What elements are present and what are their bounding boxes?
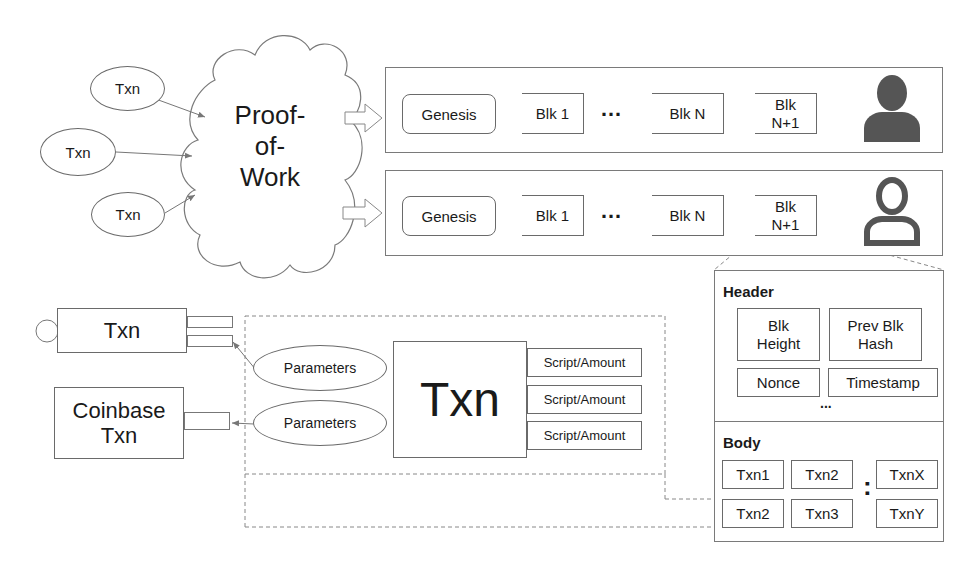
txn-input-label: Txn: [65, 144, 90, 161]
block-label: Blk N: [670, 105, 706, 122]
block-1: Blk 1: [522, 195, 584, 236]
txn-input-ellipse: Txn: [91, 192, 165, 237]
header-field-timestamp: Timestamp: [828, 368, 938, 397]
coinbase-label: Txn: [101, 423, 138, 448]
block-n-plus-1: Blk N+1: [755, 93, 817, 134]
block-n-plus-1: Blk N+1: [755, 195, 817, 236]
block-label: Blk 1: [536, 207, 569, 224]
txn-label: Txn3: [805, 505, 838, 522]
body-txn: TxnY: [876, 499, 938, 528]
field-label: Height: [757, 335, 800, 352]
cloud-line: Work: [215, 162, 325, 193]
field-label: Hash: [858, 335, 893, 352]
block-n: Blk N: [652, 195, 724, 236]
block-label: N+1: [772, 216, 800, 233]
txn-input-ellipse: Txn: [90, 66, 165, 111]
body-txn: TxnX: [876, 460, 938, 489]
txn-label: TxnY: [889, 505, 924, 522]
txn-label: Txn2: [805, 466, 838, 483]
body-more: :: [863, 473, 872, 499]
field-label: Timestamp: [846, 374, 920, 391]
block-label: Blk 1: [536, 105, 569, 122]
header-field-blk-height: Blk Height: [737, 308, 820, 361]
block-n: Blk N: [652, 93, 724, 134]
field-label: Nonce: [757, 374, 800, 391]
genesis-block: Genesis: [402, 196, 496, 236]
header-title: Header: [723, 283, 774, 300]
body-txn: Txn2: [791, 460, 853, 489]
txn-main-label: Txn: [420, 372, 500, 427]
output-label: Script/Amount: [544, 428, 626, 443]
parameters-label: Parameters: [284, 360, 356, 376]
txn-label: Txn2: [736, 505, 769, 522]
prev-txn-output: [187, 316, 233, 328]
cloud-line: of-: [215, 131, 325, 162]
user-filled-icon: [862, 72, 922, 144]
coinbase-output: [184, 412, 230, 430]
block-label: Genesis: [421, 106, 476, 123]
chain-ellipsis: …: [600, 96, 622, 122]
block-label: Blk N: [670, 207, 706, 224]
proof-of-work-cloud: Proof- of- Work: [215, 100, 325, 193]
output-label: Script/Amount: [544, 392, 626, 407]
prev-txn-box: Txn: [57, 308, 187, 353]
output-script-amount: Script/Amount: [527, 348, 642, 377]
chain-ellipsis: …: [600, 198, 622, 224]
body-title: Body: [723, 434, 761, 451]
prev-txn-output: [187, 335, 233, 347]
user-outline-icon: [862, 175, 922, 249]
body-txn: Txn2: [722, 499, 784, 528]
output-label: Script/Amount: [544, 355, 626, 370]
body-txn: Txn1: [722, 460, 784, 489]
field-label: Prev Blk: [848, 317, 904, 334]
txn-label: Txn1: [736, 466, 769, 483]
body-txn: Txn3: [791, 499, 853, 528]
txn-label: TxnX: [889, 466, 924, 483]
txn-input-label: Txn: [115, 206, 140, 223]
block-label: N+1: [772, 114, 800, 131]
block-label: Genesis: [421, 208, 476, 225]
header-field-nonce: Nonce: [737, 368, 820, 397]
txn-input-ellipse: Txn: [40, 128, 116, 176]
block-1: Blk 1: [522, 93, 584, 134]
block-label: Blk: [775, 198, 796, 215]
field-label: Blk: [768, 317, 789, 334]
header-body-divider: [715, 421, 943, 422]
txn-main-box: Txn: [393, 341, 527, 458]
block-detail-panel: Header Blk Height Prev Blk Hash Nonce Ti…: [714, 270, 944, 542]
prev-txn-label: Txn: [104, 318, 141, 344]
output-script-amount: Script/Amount: [527, 385, 642, 414]
txn-input-label: Txn: [115, 80, 140, 97]
parameters-ellipse: Parameters: [253, 345, 387, 391]
coinbase-txn-box: Coinbase Txn: [54, 387, 184, 459]
genesis-block: Genesis: [402, 94, 496, 134]
header-field-prev-hash: Prev Blk Hash: [829, 308, 922, 361]
parameters-ellipse: Parameters: [253, 400, 387, 446]
cloud-line: Proof-: [215, 100, 325, 131]
block-label: Blk: [775, 96, 796, 113]
header-more: ...: [820, 395, 832, 411]
coinbase-label: Coinbase: [73, 398, 166, 423]
output-script-amount: Script/Amount: [527, 421, 642, 450]
parameters-label: Parameters: [284, 415, 356, 431]
